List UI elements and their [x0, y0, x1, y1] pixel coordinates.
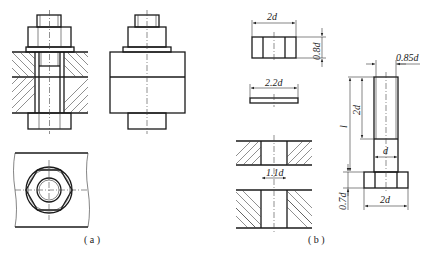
panel-a: ( a ) — [0, 10, 185, 246]
dim-thread-minor: 0.85d — [396, 52, 420, 63]
top-view — [14, 153, 90, 227]
dim-washer-width: 2.2d — [265, 77, 284, 88]
technical-drawing: ( a ) 2d 0.8d — [0, 0, 426, 255]
dim-nut-height: 0.8d — [311, 42, 322, 61]
section-view — [0, 10, 124, 134]
bolt-drawing: 0.85d l 2d d 0.7d 2d — [337, 52, 420, 210]
dim-head-height: 0.7d — [337, 192, 348, 211]
washer-drawing: 2.2d — [250, 77, 298, 107]
plates-drawing: 1.1d — [214, 135, 330, 242]
dim-bolt-diameter: d — [383, 145, 389, 156]
panel-label-b: ( b ) — [308, 234, 325, 246]
dim-nut-width: 2d — [267, 11, 278, 22]
exterior-view — [110, 10, 185, 134]
dim-thread-length: 2d — [351, 104, 362, 115]
dim-hole-diameter: 1.1d — [266, 167, 285, 178]
nut-drawing: 2d 0.8d — [252, 11, 326, 67]
panel-b: 2d 0.8d 2.2d — [214, 11, 420, 246]
dim-head-width: 2d — [380, 194, 391, 205]
panel-label-a: ( a ) — [84, 234, 100, 246]
dim-bolt-length: l — [338, 125, 349, 128]
